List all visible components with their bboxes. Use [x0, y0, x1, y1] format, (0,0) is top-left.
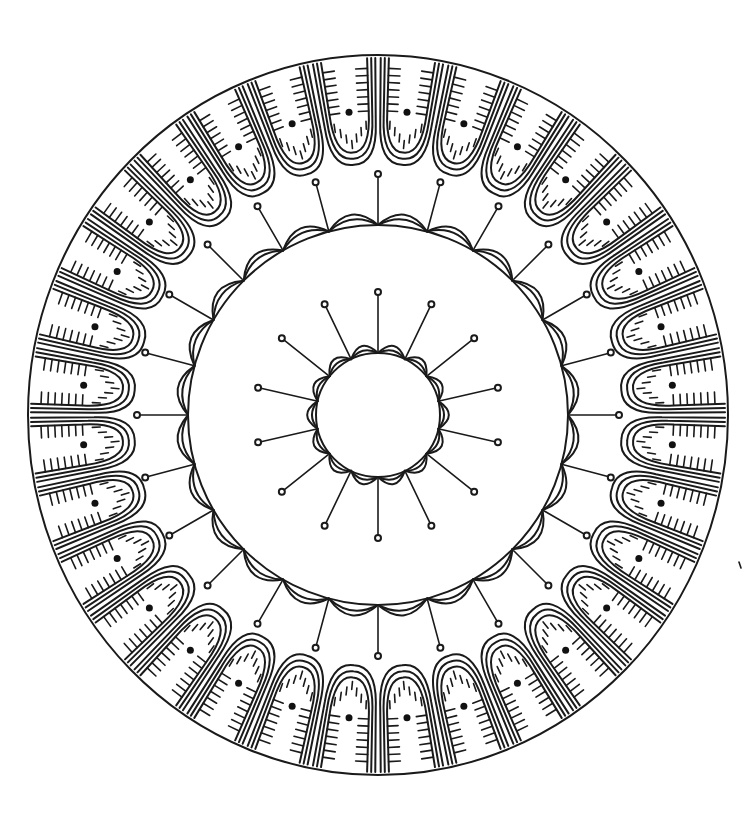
- spoke-tip: [608, 350, 614, 356]
- spoke: [544, 296, 584, 319]
- petal-dot: [187, 647, 194, 654]
- petal-dot: [235, 143, 242, 150]
- spoke-tip: [584, 292, 590, 298]
- spoke: [259, 209, 282, 249]
- outer-petal: [482, 86, 569, 196]
- spoke: [428, 600, 440, 644]
- spoke-tip: [496, 621, 502, 627]
- petal-dot: [346, 109, 353, 116]
- outer-petal: [591, 219, 698, 309]
- spoke-tip: [313, 179, 319, 185]
- spoke-tip: [255, 203, 261, 209]
- spoke: [148, 353, 192, 365]
- spoke: [210, 247, 243, 280]
- petal-dot: [460, 120, 467, 127]
- spoke: [316, 600, 328, 644]
- petal-dot: [514, 680, 521, 687]
- petal-dot: [235, 680, 242, 687]
- spoke-tip: [205, 242, 211, 248]
- mandala-artwork: [0, 0, 753, 817]
- spoke: [210, 551, 243, 584]
- spoke: [172, 296, 212, 319]
- outer-petal: [248, 654, 323, 764]
- petal-dot: [91, 323, 98, 330]
- spoke-tip: [205, 582, 211, 588]
- outer-petal: [433, 654, 508, 764]
- petal-dot: [562, 176, 569, 183]
- spoke: [514, 551, 547, 584]
- petal-dot: [635, 268, 642, 275]
- spoke-tip: [142, 474, 148, 480]
- petal-dot: [80, 441, 87, 448]
- spoke-tip: [166, 533, 172, 539]
- petal-dot: [658, 323, 665, 330]
- spoke: [563, 353, 607, 365]
- outer-petal: [433, 65, 508, 175]
- outer-petal: [482, 634, 569, 744]
- spoke-tip: [496, 203, 502, 209]
- spoke-tip: [313, 645, 319, 651]
- outer-petal: [58, 521, 165, 611]
- petal-dot: [403, 714, 410, 721]
- spoke-tip: [375, 171, 381, 177]
- petal-dot: [658, 500, 665, 507]
- spoke-tip: [166, 292, 172, 298]
- petal-dot: [603, 219, 610, 226]
- petal-dot: [562, 647, 569, 654]
- outer-petal: [38, 472, 145, 549]
- spoke-tip: [545, 242, 551, 248]
- spoke-tip: [616, 412, 622, 418]
- outer-petal: [248, 65, 323, 175]
- petal-dot: [635, 555, 642, 562]
- spoke: [514, 247, 547, 280]
- spoke: [428, 185, 440, 229]
- spoke-tip: [255, 621, 261, 627]
- petal-dot: [460, 703, 467, 710]
- petal-dot: [403, 109, 410, 116]
- petal-dot: [187, 176, 194, 183]
- petal-dot: [669, 441, 676, 448]
- outer-petal: [591, 521, 698, 611]
- spoke-tip: [437, 179, 443, 185]
- outer-petal: [187, 86, 274, 196]
- spoke: [316, 185, 328, 229]
- spoke: [172, 511, 212, 534]
- outer-petal: [187, 634, 274, 744]
- spoke-tip: [375, 653, 381, 659]
- spoke-tip: [134, 412, 140, 418]
- stray-mark: [739, 562, 741, 568]
- spoke-tip: [584, 533, 590, 539]
- petal-dot: [114, 555, 121, 562]
- spoke: [474, 209, 497, 249]
- petal-dot: [669, 382, 676, 389]
- spoke-tip: [545, 582, 551, 588]
- petal-dot: [91, 500, 98, 507]
- petal-dot: [289, 703, 296, 710]
- petal-dot: [146, 219, 153, 226]
- petal-dot: [603, 604, 610, 611]
- spoke-tip: [142, 350, 148, 356]
- spoke: [544, 511, 584, 534]
- petal-dot: [289, 120, 296, 127]
- spoke: [148, 465, 192, 477]
- petal-dot: [514, 143, 521, 150]
- spoke-tip: [608, 474, 614, 480]
- petal-dot: [114, 268, 121, 275]
- outer-petal: [58, 219, 165, 309]
- petal-dot: [146, 604, 153, 611]
- outer-petal: [38, 281, 145, 358]
- spoke-tip: [437, 645, 443, 651]
- petal-dot: [346, 714, 353, 721]
- outer-petal: [611, 281, 718, 358]
- spoke: [563, 465, 607, 477]
- spoke: [474, 581, 497, 621]
- spoke: [259, 581, 282, 621]
- outer-petal: [611, 472, 718, 549]
- petal-dot: [80, 382, 87, 389]
